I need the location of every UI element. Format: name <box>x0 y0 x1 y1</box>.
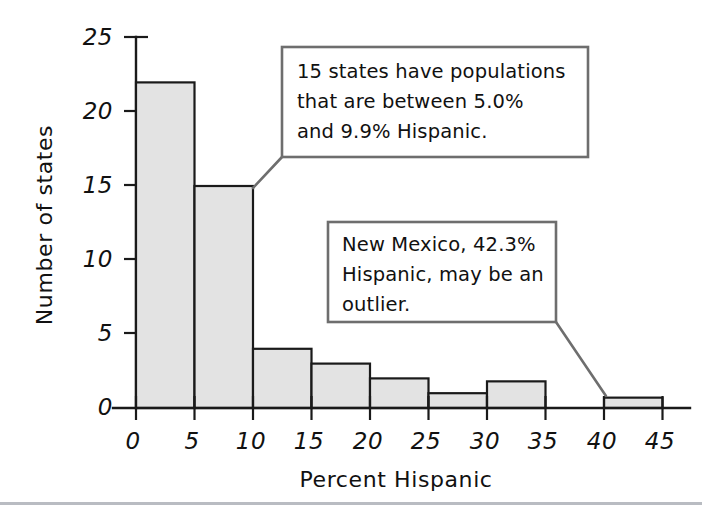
bar-bin-30-35 <box>487 381 546 408</box>
callout-15-states-line-1: 15 states have populations <box>297 60 566 83</box>
x-tick-label-30: 30 <box>470 428 500 454</box>
bar-bin-0-5 <box>136 82 195 408</box>
x-axis: 0 5 10 15 20 25 30 35 40 45 Percent Hisp… <box>113 396 690 492</box>
y-tick-label-0: 0 <box>98 394 113 420</box>
x-tick-label-40: 40 <box>587 428 617 454</box>
x-axis-title: Percent Hispanic <box>299 467 492 492</box>
y-tick-label-5: 5 <box>98 320 113 346</box>
bar-bin-10-15 <box>253 349 312 408</box>
x-tick-label-45: 45 <box>645 428 675 454</box>
bar-bin-40-45 <box>604 398 663 408</box>
footer-divider <box>0 502 702 505</box>
callout-15-states-line-2: that are between 5.0% <box>297 90 524 113</box>
callout-15-states-line-3: and 9.9% Hispanic. <box>297 120 488 143</box>
x-tick-label-10: 10 <box>236 428 266 454</box>
callout-new-mexico-line-2: Hispanic, may be an <box>342 263 544 286</box>
callout-15-states: 15 states have populations that are betw… <box>253 47 588 188</box>
x-tick-label-0: 0 <box>125 428 140 454</box>
bar-bin-25-30 <box>429 393 488 408</box>
x-tick-label-20: 20 <box>353 428 383 454</box>
x-tick-label-35: 35 <box>528 428 558 454</box>
bar-bin-20-25 <box>370 378 429 408</box>
x-tick-label-5: 5 <box>184 428 199 454</box>
y-axis: 25 20 15 10 5 0 Number of states <box>32 24 148 420</box>
callout-15-states-leader <box>253 157 282 188</box>
y-tick-label-10: 10 <box>83 246 113 272</box>
callout-new-mexico-line-3: outlier. <box>342 293 410 316</box>
bar-bin-15-20 <box>312 364 371 408</box>
y-tick-label-15: 15 <box>83 172 113 198</box>
x-tick-label-25: 25 <box>411 428 441 454</box>
callout-new-mexico-line-1: New Mexico, 42.3% <box>342 233 536 256</box>
histogram-figure: 25 20 15 10 5 0 Number of states <box>0 0 702 522</box>
callout-new-mexico-leader <box>556 322 606 396</box>
x-tick-label-15: 15 <box>294 428 324 454</box>
y-tick-label-25: 25 <box>83 24 113 50</box>
y-axis-title: Number of states <box>32 125 57 325</box>
chart-canvas: 25 20 15 10 5 0 Number of states <box>0 0 702 500</box>
y-tick-label-20: 20 <box>83 98 113 124</box>
bar-bin-5-10 <box>195 186 254 408</box>
